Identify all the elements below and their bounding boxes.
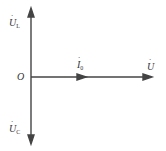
phasor-label-i0: ·I0 xyxy=(77,60,83,71)
phasor-label-ul: ·UL xyxy=(9,18,20,29)
uc-arrowhead-icon xyxy=(28,135,34,144)
phasor-label-uc: ·UC xyxy=(9,124,20,135)
phasor-diagram xyxy=(0,0,166,151)
u-arrowhead-icon xyxy=(143,74,152,80)
origin-label: O xyxy=(17,72,24,82)
ul-arrowhead-icon xyxy=(28,8,34,17)
i0-arrowhead-icon xyxy=(77,74,86,80)
phasor-label-u: ·U xyxy=(147,62,154,72)
